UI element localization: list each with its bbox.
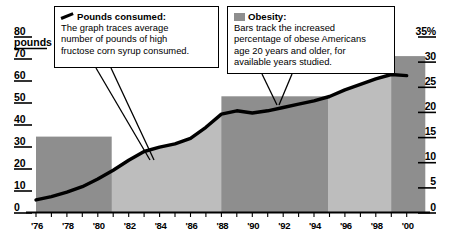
right-tick-label: 0: [430, 201, 436, 213]
left-axis-unit-label: pounds: [14, 36, 52, 48]
obesity-callout-line-3: age 20 years and older, for: [234, 45, 389, 56]
x-tick-label: '86: [186, 220, 198, 231]
pounds-callout-line-2: number of pounds of high: [61, 33, 213, 44]
obesity-callout-body: Bars track the increased percentage of o…: [234, 22, 389, 67]
right-tick-label: 35%: [416, 25, 437, 37]
x-tick-label: '78: [62, 220, 74, 231]
x-tick-label: '90: [247, 220, 259, 231]
obesity-bar: [221, 96, 328, 212]
x-tick-label: '96: [340, 220, 352, 231]
x-tick-label: '98: [371, 220, 383, 231]
bar-swatch-icon: [234, 13, 245, 21]
left-tick-label: 80: [14, 25, 26, 37]
x-tick-label: '88: [216, 220, 228, 231]
obesity-callout-title: Obesity:: [234, 11, 389, 22]
right-tick-label: 20: [425, 100, 437, 112]
x-tick-label: '94: [309, 220, 322, 231]
x-axis-labels: '76'78'80'82'84'86'88'90'92'94'96'98'00: [31, 220, 414, 231]
left-tick-label: 20: [14, 157, 26, 169]
x-tick-label: '76: [31, 220, 43, 231]
left-tick-label: 50: [14, 91, 26, 103]
pounds-callout-line-1: The graph traces average: [61, 22, 213, 33]
pounds-callout-line-3: fructose corn syrup consumed.: [61, 45, 213, 56]
line-swatch-icon: [61, 12, 74, 21]
hfcs-obesity-chart: 80706050403020100pounds 35%302520151050 …: [0, 0, 455, 242]
right-tick-label: 5: [430, 175, 436, 187]
pounds-consumed-callout: Pounds consumed: The graph traces averag…: [54, 6, 219, 68]
obesity-callout-line-4: available years studied.: [234, 56, 389, 67]
left-tick-label: 30: [14, 135, 26, 147]
left-tick-label: 40: [14, 113, 26, 125]
obesity-callout-line-2: percentage of obese Americans: [234, 33, 389, 44]
right-tick-label: 25: [425, 75, 437, 87]
x-tick-label: '84: [155, 220, 168, 231]
x-tick-label: '00: [402, 220, 414, 231]
left-tick-label: 0: [14, 201, 20, 213]
obesity-callout: Obesity: Bars track the increased percen…: [227, 6, 395, 74]
pounds-callout-title: Pounds consumed:: [61, 11, 213, 22]
left-tick-label: 60: [14, 69, 26, 81]
pounds-callout-body: The graph traces average number of pound…: [61, 22, 213, 56]
x-tick-label: '80: [93, 220, 105, 231]
pounds-callout-title-text: Pounds consumed:: [77, 11, 166, 22]
obesity-callout-title-text: Obesity:: [248, 11, 286, 22]
right-tick-label: 30: [425, 50, 437, 62]
left-tick-label: 10: [14, 179, 26, 191]
obesity-bar: [36, 137, 112, 212]
x-tick-label: '92: [278, 220, 290, 231]
x-tick-label: '82: [124, 220, 136, 231]
obesity-callout-line-1: Bars track the increased: [234, 22, 389, 33]
right-tick-label: 15: [425, 125, 437, 137]
right-tick-label: 10: [425, 150, 437, 162]
